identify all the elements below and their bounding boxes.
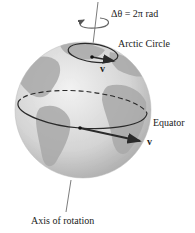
globe xyxy=(15,42,151,178)
arctic-circle-label: Arctic Circle xyxy=(118,39,170,49)
axis-line-top xyxy=(93,2,98,44)
axis-of-rotation-label: Axis of rotation xyxy=(31,216,94,226)
axis-line-bottom xyxy=(66,180,71,212)
equator-label: Equator xyxy=(153,118,185,128)
arctic-velocity-label: v⃗ xyxy=(100,64,113,74)
equator-velocity-label: v⃗ xyxy=(147,137,160,147)
rotation-angle-label: Δθ = 2π rad xyxy=(111,9,158,19)
rotation-arrow-icon xyxy=(80,18,109,28)
